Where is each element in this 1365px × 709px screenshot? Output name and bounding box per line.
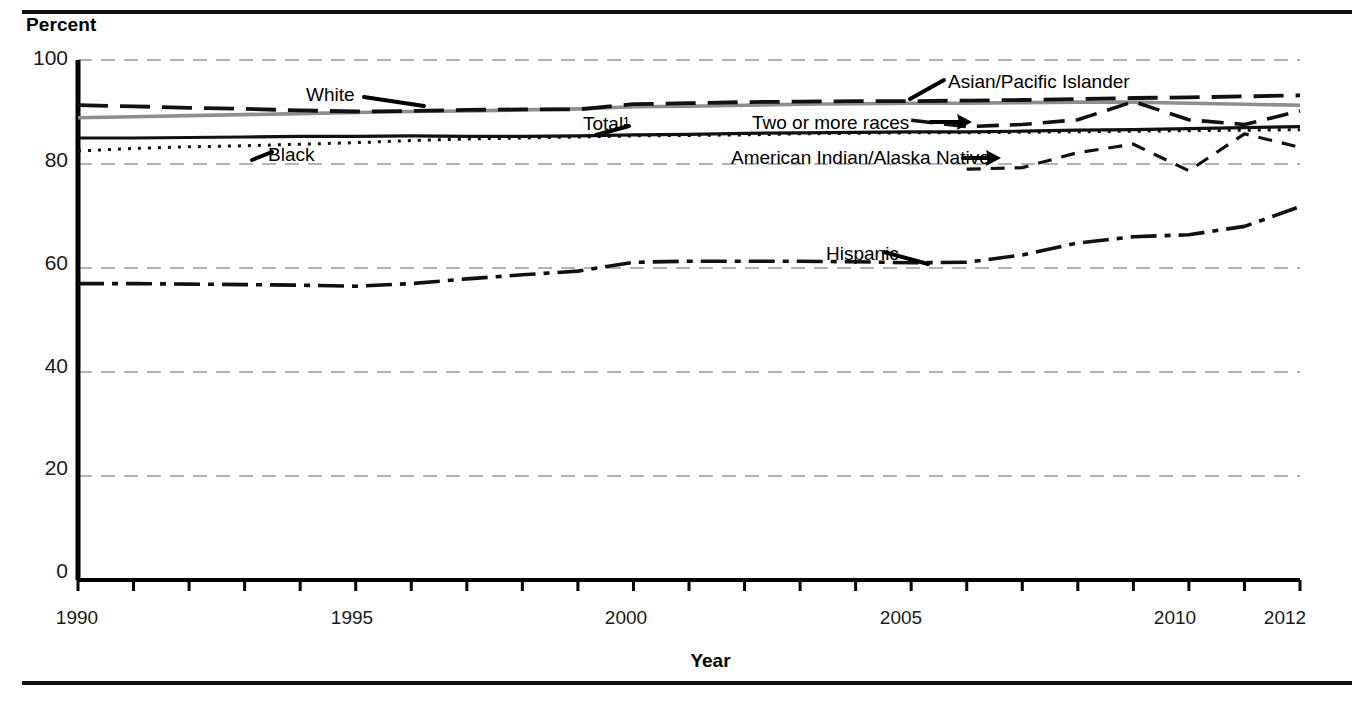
x-tick-1990: 1990 [37,607,117,629]
series-label-hispanic: Hispanic [826,243,899,265]
leader-white [364,97,424,106]
series-label-white: White [306,84,355,106]
y-tick-60: 60 [8,251,68,275]
series-label-aian: American Indian/Alaska Native [731,147,990,169]
y-tick-100: 100 [8,46,68,70]
x-tick-1995: 1995 [312,607,392,629]
y-tick-40: 40 [8,354,68,378]
data-series-group [78,95,1300,286]
series-line-american-indian-alaska-native [967,134,1300,171]
y-tick-80: 80 [8,148,68,172]
x-tick-2010: 2010 [1135,607,1215,629]
line-chart-canvas [0,0,1365,709]
y-tick-0: 0 [8,559,68,583]
leader-asian [910,80,944,99]
series-label-black: Black [268,144,314,166]
x-tick-2000: 2000 [586,607,666,629]
series-line-hispanic [78,207,1300,287]
series-label-two-or-more: Two or more races [752,112,909,134]
y-tick-20: 20 [8,456,68,480]
series-label-asian: Asian/Pacific Islander [948,71,1130,93]
x-tick-2012: 2012 [1245,607,1325,629]
series-label-total: Total¹ [583,113,629,135]
x-tick-2005: 2005 [861,607,941,629]
